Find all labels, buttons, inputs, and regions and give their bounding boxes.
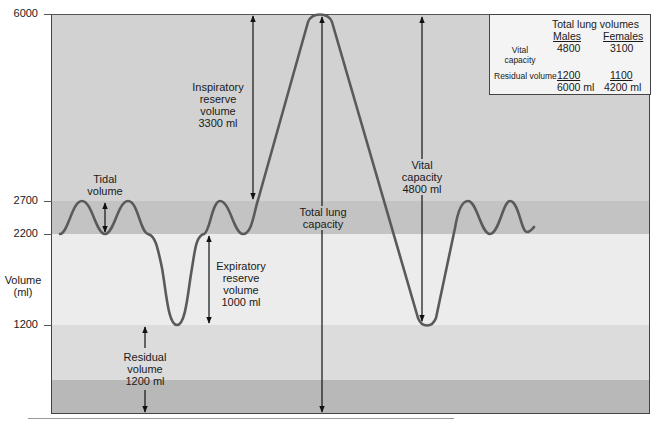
erv-line4: 1000 ml: [210, 296, 272, 308]
tidal-volume-line2: volume: [77, 185, 133, 197]
legend-col-females: Females: [603, 30, 643, 42]
legend-row-vc-label-2: capacity: [500, 55, 540, 65]
legend-vc-males: 4800: [557, 42, 580, 54]
tidal-volume-label: Tidal volume: [77, 173, 133, 197]
rv-line3: 1200 ml: [115, 375, 175, 387]
legend-total-males: 6000 ml: [557, 81, 594, 93]
erv-line1: Expiratory: [210, 260, 272, 272]
expiratory-reserve-label: Expiratory reserve volume 1000 ml: [210, 260, 272, 308]
total-lung-capacity-label: Total lung capacity: [292, 206, 354, 230]
tlc-line2: capacity: [292, 218, 354, 230]
vital-capacity-label: Vital capacity 4800 ml: [398, 159, 446, 195]
irv-line3: volume: [186, 105, 250, 117]
legend-row-rv-label: Residual volume: [494, 71, 557, 81]
spirogram-trace: [60, 15, 534, 326]
tlc-line1: Total lung: [292, 206, 354, 218]
legend-rv-males: 1200: [557, 69, 580, 81]
rv-line2: volume: [115, 363, 175, 375]
erv-line3: volume: [210, 284, 272, 296]
legend-col-males: Males: [553, 30, 581, 42]
bottom-rule: [28, 418, 454, 419]
irv-line2: reserve: [186, 93, 250, 105]
legend-rv-females: 1100: [610, 69, 633, 81]
residual-volume-label: Residual volume 1200 ml: [115, 351, 175, 387]
legend-vc-females: 3100: [610, 42, 633, 54]
legend-row-vc-label: Vital capacity: [500, 45, 540, 65]
legend-total-females: 4200 ml: [604, 81, 641, 93]
erv-line2: reserve: [210, 272, 272, 284]
vc-line3: 4800 ml: [398, 183, 446, 195]
irv-line1: Inspiratory: [186, 81, 250, 93]
tidal-volume-line1: Tidal: [77, 173, 133, 185]
legend-row-vc-label-1: Vital: [500, 45, 540, 55]
inspiratory-reserve-label: Inspiratory reserve volume 3300 ml: [186, 81, 250, 129]
irv-line4: 3300 ml: [186, 117, 250, 129]
vc-line2: capacity: [398, 171, 446, 183]
vc-line1: Vital: [398, 159, 446, 171]
legend-box: Total lung volumes Males Females Vital c…: [489, 14, 651, 95]
legend-title: Total lung volumes: [552, 18, 639, 30]
rv-line1: Residual: [115, 351, 175, 363]
